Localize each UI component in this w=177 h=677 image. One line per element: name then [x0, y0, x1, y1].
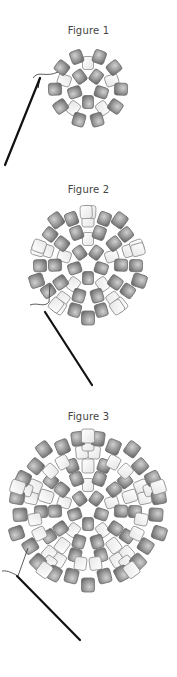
dark-bead: [83, 272, 94, 285]
light-bead: [134, 512, 149, 526]
dark-bead: [123, 440, 142, 459]
dark-bead: [88, 244, 105, 261]
dark-bead: [93, 507, 109, 521]
dark-bead: [131, 457, 150, 476]
beadwork-diagrams: [0, 0, 177, 677]
dark-bead: [96, 568, 112, 585]
dark-bead: [72, 68, 89, 85]
dark-bead: [83, 518, 94, 531]
dark-bead: [48, 259, 61, 271]
dark-bead: [13, 508, 28, 522]
dark-bead: [131, 272, 148, 289]
light-bead: [74, 556, 88, 571]
dark-bead: [48, 83, 61, 95]
dark-bead: [67, 302, 82, 318]
dark-bead: [151, 525, 168, 542]
dark-bead: [88, 490, 105, 507]
dark-bead: [72, 244, 89, 261]
figure-2-diagram: [28, 205, 148, 325]
light-bead: [82, 459, 94, 473]
dark-bead: [64, 211, 80, 227]
dark-bead: [28, 272, 45, 289]
dark-bead: [105, 438, 122, 456]
dark-bead: [82, 311, 95, 325]
dark-bead: [107, 98, 124, 115]
dark-bead: [105, 59, 123, 76]
dark-bead: [94, 302, 109, 318]
dark-bead: [52, 98, 69, 115]
dark-bead: [35, 440, 54, 459]
dark-bead: [93, 261, 109, 275]
light-bead: [83, 479, 94, 492]
dark-bead: [72, 490, 89, 507]
dark-bead: [114, 259, 127, 271]
dark-bead: [97, 211, 113, 227]
light-bead: [27, 512, 42, 526]
dark-bead: [67, 85, 83, 99]
dark-bead: [26, 457, 45, 476]
dark-bead: [129, 259, 142, 271]
dark-bead: [114, 83, 127, 95]
light-bead: [82, 429, 95, 443]
dark-bead: [93, 85, 109, 99]
light-bead: [83, 233, 94, 246]
light-bead: [80, 205, 92, 218]
dark-bead: [148, 508, 163, 522]
dark-bead: [83, 96, 94, 109]
light-bead: [89, 556, 103, 571]
dark-bead: [82, 578, 95, 592]
dark-bead: [48, 505, 61, 517]
dark-bead: [33, 259, 46, 271]
dark-bead: [53, 59, 71, 76]
light-bead: [83, 57, 94, 70]
dark-bead: [64, 568, 80, 585]
dark-bead: [67, 507, 83, 521]
dark-bead: [54, 438, 71, 456]
dark-bead: [8, 525, 25, 542]
figure-3-diagram: [8, 429, 168, 592]
dark-bead: [114, 505, 127, 517]
dark-bead: [88, 68, 105, 85]
dark-bead: [67, 261, 83, 275]
figure-1-diagram: [48, 49, 127, 128]
